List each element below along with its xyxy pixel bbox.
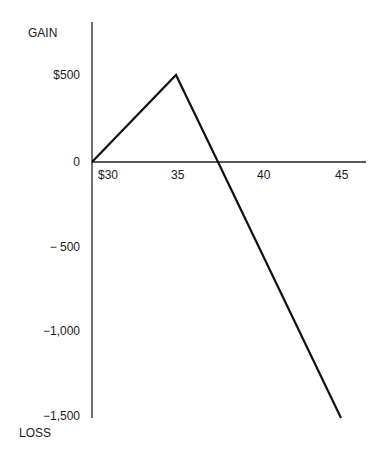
y-tick-neg1500: −1,500 — [10, 409, 80, 423]
x-tick-35: 35 — [171, 168, 184, 182]
y-tick-neg1000: −1,000 — [10, 324, 80, 338]
y-tick-0: 0 — [10, 155, 80, 169]
x-tick-30: $30 — [98, 168, 118, 182]
payoff-line — [92, 75, 341, 418]
y-tick-neg500: − 500 — [10, 240, 80, 254]
y-tick-500: $500 — [10, 68, 80, 82]
x-tick-40: 40 — [257, 168, 270, 182]
x-tick-45: 45 — [335, 168, 348, 182]
gain-label: GAIN — [28, 26, 57, 40]
loss-label: LOSS — [19, 426, 51, 440]
